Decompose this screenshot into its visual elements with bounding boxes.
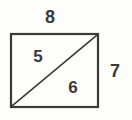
- upper-left-region-label: 5: [27, 48, 49, 66]
- top-side-length-label: 8: [38, 8, 62, 26]
- lower-right-region-label: 6: [62, 79, 84, 97]
- right-side-length-label: 7: [105, 62, 125, 80]
- figure-drawing: [0, 0, 132, 120]
- geometry-figure: 8 5 6 7: [0, 0, 132, 120]
- diagonal-line: [12, 35, 97, 106]
